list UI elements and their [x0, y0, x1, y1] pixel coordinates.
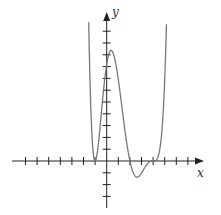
function-curve [89, 22, 167, 177]
function-graph: x y [0, 0, 221, 215]
x-axis-label: x [197, 166, 204, 180]
x-axis-arrow-icon [195, 158, 204, 165]
y-axis-arrow-icon [103, 12, 110, 21]
y-axis-label: y [111, 5, 119, 19]
